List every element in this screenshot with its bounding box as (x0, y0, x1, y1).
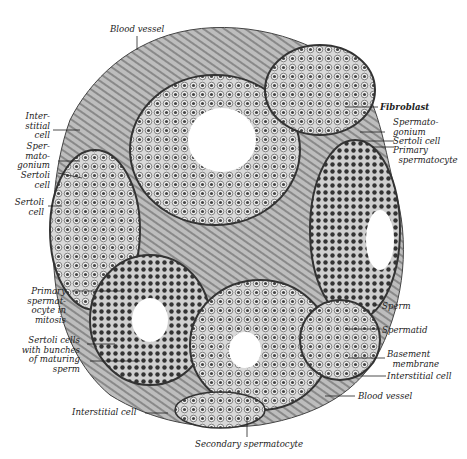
label-blood-vessel-top: Blood vessel (110, 25, 164, 35)
label-sertoli-cells-bunches: Sertoli cells with bunches of maturing s… (14, 336, 80, 374)
label-interstitial-cell-right: Interstitial cell (387, 372, 451, 382)
label-fibroblast: Fibroblast (380, 103, 429, 113)
label-sertoli-cell-left-2: Sertoli cell (8, 198, 44, 217)
tubule-top-right (265, 45, 375, 135)
lumen-bottom-left (132, 298, 168, 342)
label-primary-spermatocyte-mitosis: Primary spermat- ocyte in mitosis (14, 287, 66, 325)
label-basement-membrane: Basement membrane (387, 350, 439, 369)
label-sertoli-cell-left-1: Sertoli cell (14, 171, 50, 190)
lumen-bottom-center (229, 332, 261, 368)
lumen-right (366, 210, 394, 270)
label-secondary-spermatocyte: Secondary spermatocyte (195, 440, 303, 450)
label-interstitial-cell-bottom: Interstitial cell (72, 408, 136, 418)
label-interstitial-cell-left: Inter- stitial cell (18, 112, 50, 141)
lumen-top-center (188, 108, 256, 172)
label-spermatogonium-left: Sper- mato- gonium (14, 142, 50, 171)
label-spermatogonium-right: Spermato- gonium (393, 118, 438, 137)
tubule-bottom (175, 392, 265, 428)
label-blood-vessel-bottom: Blood vessel (358, 392, 412, 402)
label-primary-spermatocyte: Primary spermatocyte (393, 146, 458, 165)
label-spermatid: Spermatid (382, 326, 428, 336)
label-sperm: Sperm (382, 302, 411, 312)
tubule-bottom-right (300, 300, 380, 380)
testis-section-figure: Blood vessel Inter- stitial cell Sper- m… (0, 0, 467, 459)
